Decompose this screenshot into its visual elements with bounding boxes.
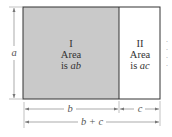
region-ii-numeral: II <box>120 38 160 49</box>
region-ii-area-word: Area <box>120 49 160 60</box>
arrowhead-left-icon <box>25 108 29 111</box>
arrowhead-down-icon <box>13 94 16 98</box>
arrowhead-right-icon <box>155 108 159 111</box>
width-label-b: b <box>63 103 77 114</box>
region-i-formula: is ab <box>51 60 91 71</box>
region-ii-formula: is ac <box>120 60 160 71</box>
width-label-c: c <box>133 103 147 114</box>
region-i-label: I Area is ab <box>51 38 91 71</box>
height-label-a: a <box>7 47 21 58</box>
arrowhead-right-icon <box>114 108 118 111</box>
arrowhead-left-icon <box>120 108 124 111</box>
cropped-margin-text: · · · · <box>166 38 172 70</box>
arrowhead-up-icon <box>13 8 16 12</box>
region-i-numeral: I <box>51 38 91 49</box>
region-i-area-word: Area <box>51 49 91 60</box>
region-ii-label: II Area is ac <box>120 38 160 71</box>
arrowhead-right-icon <box>155 121 159 124</box>
arrowhead-left-icon <box>25 121 29 124</box>
width-label-b-plus-c: b + c <box>77 116 107 127</box>
